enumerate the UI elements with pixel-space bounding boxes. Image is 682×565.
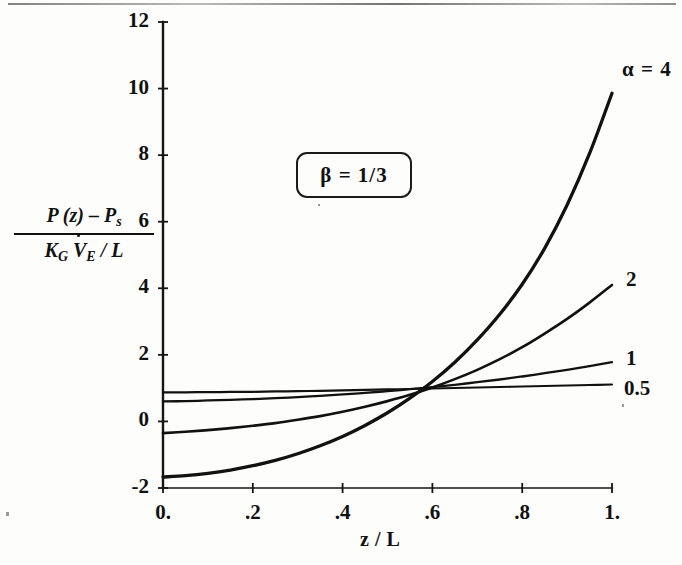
y-axis-title-denominator: KG VE / L <box>14 237 154 265</box>
y-axis-tick-label: 4 <box>107 274 149 299</box>
y-axis-tick-label: 0 <box>107 407 149 432</box>
y-axis-tick-label: 12 <box>107 8 149 33</box>
y-axis-tick-label: 2 <box>107 341 149 366</box>
x-axis-tick-label: .4 <box>323 500 363 525</box>
fraction-bar <box>14 233 154 235</box>
chart-series-curve <box>163 362 612 401</box>
y-axis-tick-label: -2 <box>107 474 149 499</box>
figure-canvas: -2024681012 0..2.4.6.81. P (z) – Ps KG V… <box>0 0 682 565</box>
x-axis-tick-label: .2 <box>233 500 273 525</box>
series-label: 2 <box>626 267 637 292</box>
annotation-beta-value: = 1/3 <box>339 163 388 188</box>
denominator-k: K <box>45 239 58 261</box>
y-axis-title-numerator-main: P (z) – P <box>46 204 116 226</box>
denominator-tail: / L <box>101 239 124 261</box>
y-axis-tick-label: 10 <box>107 75 149 100</box>
chart-series-curve <box>163 93 612 477</box>
x-axis-tick-label: .8 <box>502 500 542 525</box>
x-axis-tick-label: 0. <box>143 500 183 525</box>
chart-plot-area <box>0 0 682 565</box>
x-axis-title: z / L <box>360 528 400 551</box>
series-label: 1 <box>626 346 637 371</box>
y-axis-title-numerator-subscript: s <box>116 214 121 229</box>
y-axis-tick-label: 8 <box>107 141 149 166</box>
chart-series-group <box>163 93 612 477</box>
x-axis-tick-label: 1. <box>592 500 632 525</box>
annotation-box-beta: β = 1/3 <box>296 152 412 198</box>
series-label: 0.5 <box>624 376 650 401</box>
y-axis-title-numerator: P (z) – Ps <box>14 204 154 232</box>
series-label: α = 4 <box>622 57 672 82</box>
y-axis-title: P (z) – Ps KG VE / L <box>14 204 154 264</box>
denominator-v-subscript: E <box>86 249 95 264</box>
x-axis-tick-label: .6 <box>412 500 452 525</box>
denominator-v-with-dot: V <box>73 239 86 261</box>
annotation-beta-symbol: β <box>320 163 332 188</box>
denominator-k-subscript: G <box>58 249 68 264</box>
